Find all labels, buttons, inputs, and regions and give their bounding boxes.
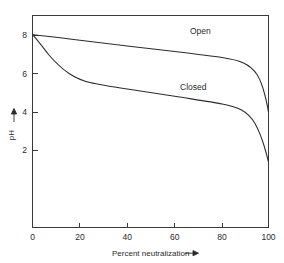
x-tick-label-100: 100 [261, 232, 275, 242]
series-curve-closed [33, 35, 268, 162]
x-tick-label-40: 40 [123, 232, 133, 242]
chart-container: 2 4 6 8 0 20 40 60 80 100 Percent neutra… [0, 0, 284, 263]
y-axis-tick-labels: 2 4 6 8 [22, 30, 27, 155]
x-tick-label-60: 60 [170, 232, 180, 242]
x-tick-label-80: 80 [217, 232, 227, 242]
titration-chart: 2 4 6 8 0 20 40 60 80 100 Percent neutra… [0, 0, 284, 263]
x-tick-label-20: 20 [75, 232, 85, 242]
series-label-open: Open [190, 26, 211, 36]
y-axis-title: pH [7, 130, 16, 140]
plot-frame [33, 16, 269, 228]
series-label-closed: Closed [180, 82, 207, 92]
x-tick-label-0: 0 [30, 232, 35, 242]
y-tick-label-6: 6 [22, 69, 27, 79]
y-tick-label-4: 4 [22, 107, 27, 117]
x-axis-ticks [33, 223, 269, 228]
y-tick-label-2: 2 [22, 145, 27, 155]
y-axis-ticks [33, 35, 38, 150]
x-axis-title: Percent neutralization [112, 249, 189, 258]
x-axis-tick-labels: 0 20 40 60 80 100 [30, 232, 276, 242]
y-tick-label-8: 8 [22, 30, 27, 40]
y-axis-arrow-icon [11, 109, 16, 123]
